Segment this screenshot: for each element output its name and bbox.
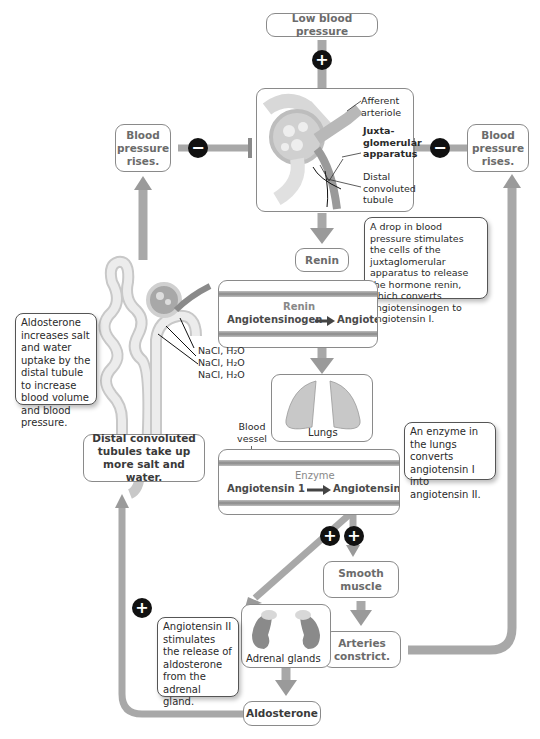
distal-tubules-node: Distal convoluted tubules take up more s…: [83, 434, 205, 482]
aldosterone-explanation-note: Aldosterone increases salt and water upt…: [15, 313, 97, 405]
nacl-h2o-label-2: NaCl, H₂O: [198, 357, 245, 369]
nacl-h2o-label-3: NaCl, H₂O: [198, 369, 245, 381]
nacl-h2o-label-1: NaCl, H₂O: [198, 345, 245, 357]
